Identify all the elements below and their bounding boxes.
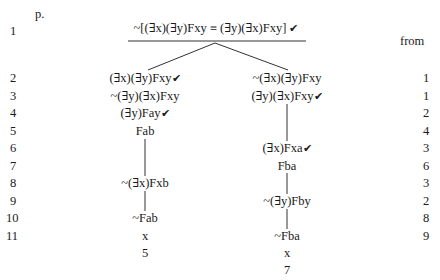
line-number-8: 8 <box>10 177 16 190</box>
left-formula-row-5: Fab <box>136 125 155 138</box>
left-branch-close-mark: x <box>142 230 148 243</box>
left-formula-row-3: ~(∃y)(∃x)Fxy <box>111 90 180 103</box>
check-mark-icon: ✔ <box>303 142 312 154</box>
right-branch-close-mark: x <box>284 247 290 260</box>
from-ref-5: 4 <box>423 125 429 138</box>
formula-text: (∃y)Fay <box>120 106 160 120</box>
right-formula-row-9: ~(∃y)Fby <box>263 195 311 208</box>
right-formula-row-7: Fba <box>278 160 297 173</box>
line-number-6: 6 <box>10 142 16 155</box>
left-formula-row-10: ~Fab <box>132 212 158 225</box>
line-number-7: 7 <box>10 160 16 173</box>
from-ref-11: 9 <box>423 230 429 243</box>
from-ref-9: 2 <box>423 195 429 208</box>
line-number-10: 10 <box>6 212 19 225</box>
right-formula-row-3: (∃y)(∃x)Fxy✔ <box>251 90 322 103</box>
line-number-9: 9 <box>10 195 16 208</box>
line-number-4: 4 <box>10 107 16 120</box>
line-number-5: 5 <box>10 125 16 138</box>
from-ref-2: 1 <box>423 72 429 85</box>
from-ref-4: 2 <box>423 107 429 120</box>
formula-text: (∃x)(∃y)Fxy <box>109 71 171 85</box>
check-mark-icon: ✔ <box>314 90 323 102</box>
formula-text: (∃y)(∃x)Fxy <box>251 89 313 103</box>
right-formula-row-2: ~(∃x)(∃y)Fxy <box>253 72 322 85</box>
left-branch-close-ref: 5 <box>142 247 148 260</box>
from-ref-8: 3 <box>423 177 429 190</box>
from-ref-3: 1 <box>423 90 429 103</box>
right-branch-close-ref: 7 <box>284 264 290 277</box>
from-ref-7: 6 <box>423 160 429 173</box>
left-formula-row-2: (∃x)(∃y)Fxy✔ <box>109 72 180 85</box>
check-mark-icon: ✔ <box>161 107 170 119</box>
tree-branch-lines <box>0 0 440 280</box>
right-formula-row-6: (∃x)Fxa✔ <box>262 142 311 155</box>
line-number-2: 2 <box>10 72 16 85</box>
from-ref-6: 3 <box>423 142 429 155</box>
left-formula-row-4: (∃y)Fay✔ <box>120 107 169 120</box>
line-number-11: 11 <box>6 230 18 243</box>
left-formula-row-8: ~(∃x)Fxb <box>121 177 169 190</box>
right-formula-row-11: ~Fba <box>274 230 300 243</box>
line-number-3: 3 <box>10 90 16 103</box>
formula-text: (∃x)Fxa <box>262 141 302 155</box>
check-mark-icon: ✔ <box>172 72 181 84</box>
from-ref-10: 8 <box>423 212 429 225</box>
